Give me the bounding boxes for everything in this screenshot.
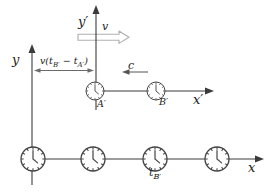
separation-label: v(tB′ − tA′) — [40, 55, 88, 69]
clock-icon — [143, 147, 167, 171]
separation-arrow — [34, 68, 94, 73]
y-prime-axis-label: y′ — [77, 14, 88, 29]
x-axis-label: x — [248, 160, 256, 175]
clock-icon — [21, 147, 45, 171]
physics-diagram-canvas: y x y′ x′ v c A′ B′ v(tB′ − tA′) tB′ — [0, 0, 276, 194]
y-axis-label: y — [11, 52, 20, 67]
x-axis-arrowhead — [255, 156, 264, 163]
x-prime-axis-label: x′ — [193, 92, 203, 107]
clock-b-prime-label: B′ — [158, 96, 169, 107]
y-axis-arrowhead — [29, 44, 36, 53]
light-signal-arrow — [122, 69, 148, 74]
light-signal-label: c — [128, 59, 134, 72]
velocity-label: v — [102, 20, 109, 33]
clock-a-prime-label: A′ — [96, 98, 107, 109]
x-prime-axis-arrowhead — [205, 88, 214, 95]
clock-icon — [81, 147, 105, 171]
y-prime-axis-arrowhead — [93, 5, 100, 14]
clock-icon — [205, 147, 229, 171]
